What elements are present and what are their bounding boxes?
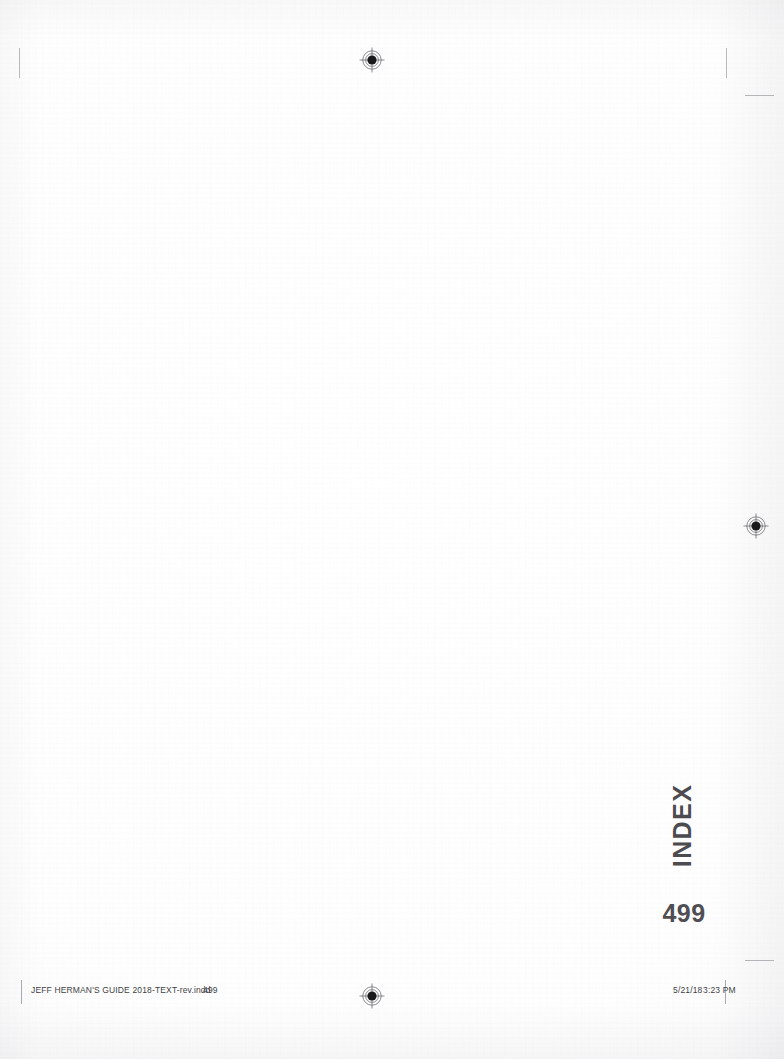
slug-time: 3:23 PM: [703, 985, 736, 995]
slug-date: 5/21/18: [673, 985, 702, 995]
print-slug-line: JEFF HERMAN'S GUIDE 2018-TEXT-rev.indd 4…: [0, 978, 784, 1006]
crop-mark-top-right-horizontal: [745, 95, 774, 96]
crop-mark-top-left-vertical: [19, 48, 20, 78]
page-number-folio: 499: [640, 899, 728, 928]
registration-mark-right-middle: [743, 513, 769, 539]
running-head-index: INDEX: [668, 772, 698, 878]
scan-edge-shading-top: [0, 0, 784, 40]
crop-mark-top-right-vertical: [726, 48, 727, 78]
slug-file-name: JEFF HERMAN'S GUIDE 2018-TEXT-rev.indd: [31, 985, 211, 995]
slug-file-page: 499: [203, 985, 218, 995]
running-head-label: INDEX: [669, 783, 698, 866]
registration-mark-top-center: [359, 47, 385, 73]
scan-edge-shading-left: [0, 0, 40, 1059]
slug-rule-left: [21, 980, 22, 1004]
crop-mark-bottom-right-horizontal: [745, 960, 774, 961]
scanned-book-page: INDEX 499 JEFF HERMAN'S GUIDE 2018-TEXT-…: [0, 0, 784, 1059]
scan-edge-shading-bottom: [0, 1004, 784, 1059]
